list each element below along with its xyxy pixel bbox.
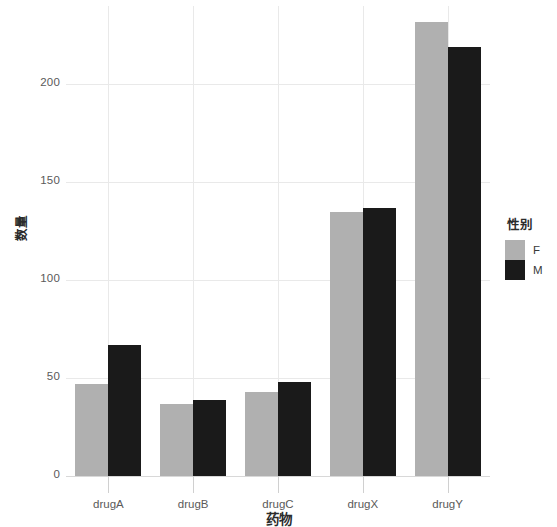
x-axis-tick-labels: drugAdrugBdrugCdrugXdrugY xyxy=(66,476,490,510)
bar-drugA-M xyxy=(108,345,141,476)
legend: 性别 F M xyxy=(505,214,557,280)
x-axis-title: 药物 xyxy=(0,508,557,527)
legend-swatch-m-icon xyxy=(505,260,525,280)
x-tick-mark xyxy=(278,476,279,493)
bars-layer xyxy=(66,6,490,476)
legend-item-f[interactable]: F xyxy=(505,240,557,260)
y-tick-label: 50 xyxy=(16,370,60,382)
plot-area xyxy=(66,6,490,476)
bar-drugB-M xyxy=(193,400,226,476)
legend-swatch-f-icon xyxy=(505,240,525,260)
y-tick-label: 200 xyxy=(16,76,60,88)
bar-drugY-M xyxy=(448,47,481,476)
x-tick-mark xyxy=(108,476,109,493)
bar-drugX-M xyxy=(363,208,396,476)
legend-label-m: M xyxy=(533,264,543,276)
bar-drugY-F xyxy=(415,22,448,476)
bar-drugC-F xyxy=(245,392,278,476)
bar-chart: 0 50 100 150 200 数量 drugAdrugBdrugCdrugX… xyxy=(0,0,557,527)
bar-drugA-F xyxy=(75,384,108,476)
y-tick-label: 0 xyxy=(16,468,60,480)
bar-drugX-F xyxy=(330,212,363,476)
y-tick-label: 150 xyxy=(16,174,60,186)
x-tick-mark xyxy=(448,476,449,493)
y-axis-tick-labels: 0 50 100 150 200 xyxy=(0,6,60,476)
legend-label-f: F xyxy=(533,244,540,256)
legend-item-m[interactable]: M xyxy=(505,260,557,280)
legend-title: 性别 xyxy=(507,214,557,233)
x-tick-mark xyxy=(193,476,194,493)
bar-drugB-F xyxy=(160,404,193,476)
x-tick-mark xyxy=(363,476,364,493)
y-tick-label: 100 xyxy=(16,272,60,284)
y-axis-title: 数量 xyxy=(11,198,30,258)
bar-drugC-M xyxy=(278,382,311,476)
